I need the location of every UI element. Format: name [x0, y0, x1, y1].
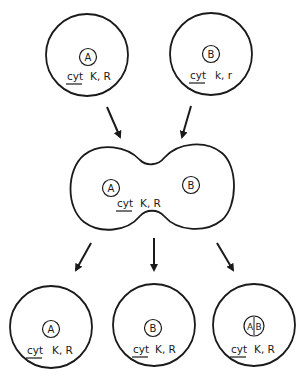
gene-label: K, R — [52, 344, 73, 356]
arrow-a-to-fusion — [107, 107, 120, 137]
arrow-b-to-fusion — [182, 106, 191, 137]
gene-label: K, R — [140, 197, 161, 209]
progeny-cell-a: A cyt K, R — [10, 286, 92, 368]
gene-label: K, R — [254, 343, 275, 355]
nucleus-label: B — [150, 323, 157, 334]
cell-fusion-diagram: A cyt K, R B cyt k, r A B cyt K, R A cyt… — [0, 0, 306, 380]
nucleus-label: A — [48, 324, 55, 335]
cytoplasm-label: cyt — [117, 197, 133, 209]
progeny-cell-b: B cyt K, R — [113, 284, 195, 366]
nucleus-label: A — [85, 52, 92, 63]
cytoplasm-label: cyt — [231, 343, 247, 355]
nucleus-label: B — [208, 49, 215, 60]
nucleus-label-a: A — [108, 183, 115, 194]
parent-cell-a: A cyt K, R — [46, 14, 128, 96]
fused-cell: A B cyt K, R — [71, 144, 235, 229]
gene-label: K, R — [155, 343, 176, 355]
cytoplasm-label: cyt — [27, 344, 43, 356]
progeny-cell-ab: A B cyt K, R — [213, 284, 295, 366]
arrow-fusion-to-progeny-a — [76, 243, 91, 270]
cytoplasm-label: cyt — [67, 70, 83, 82]
gene-label: k, r — [215, 69, 233, 81]
nucleus-label-b: B — [255, 322, 261, 332]
cytoplasm-label: cyt — [190, 69, 206, 81]
fused-cell-membrane — [71, 144, 235, 229]
parent-cell-b: B cyt k, r — [170, 13, 252, 95]
nucleus-label-b: B — [188, 180, 195, 191]
gene-label: K, R — [90, 70, 111, 82]
nucleus-label-a: A — [247, 322, 254, 332]
cytoplasm-label: cyt — [133, 343, 149, 355]
arrow-fusion-to-progeny-ab — [217, 243, 233, 270]
